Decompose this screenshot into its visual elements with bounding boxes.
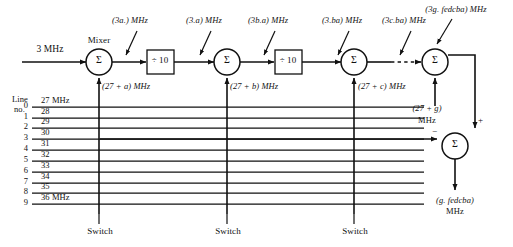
bus-line-number-1: 1 <box>24 112 28 121</box>
bus-line-number-4: 4 <box>24 144 28 153</box>
summer-3-symbol: Σ <box>351 55 357 66</box>
bus-line-frequency-9: 36 MHz <box>41 193 70 202</box>
bus-line-number-3: 3 <box>24 133 28 142</box>
divider-2-label: ÷ 10 <box>280 56 297 65</box>
input-frequency-label: 3 MHz <box>36 45 63 55</box>
output-label-line2: MHz <box>446 207 464 216</box>
bus-line-frequency-2: 29 <box>41 117 50 126</box>
stage-label-6: (3g. fedcba) MHz <box>425 5 486 14</box>
plus-sign-label: + <box>478 116 483 125</box>
offset-label-a: (27 + a) MHz <box>102 82 150 91</box>
bus-line-number-0: 0 <box>24 101 28 110</box>
bus-line-number-7: 7 <box>24 177 28 186</box>
divider-1-label: ÷ 10 <box>152 56 169 65</box>
bus-line-number-5: 5 <box>24 155 28 164</box>
stage-label-1: (3a.) MHz <box>112 16 148 25</box>
diagram-canvas: 3 MHz Mixer Σ Σ Σ Σ Σ ÷ 10 ÷ 10 (3a.) MH… <box>0 0 513 247</box>
offset-label-g-line1: (27 + g) <box>412 104 441 113</box>
offset-label-b: (27 + b) MHz <box>230 82 278 91</box>
stage-label-5: (3c.ba) MHz <box>382 16 426 25</box>
stage-label-4: (3.ba) MHz <box>322 16 362 25</box>
mixer-caption: Mixer <box>88 36 111 45</box>
summer-1-symbol: Σ <box>96 55 102 66</box>
switch-label-3[interactable]: Switch <box>342 227 368 236</box>
bus-line-number-6: 6 <box>24 166 28 175</box>
bus-line-number-8: 8 <box>24 187 28 196</box>
switch-label-1[interactable]: Switch <box>87 227 113 236</box>
summer-4-symbol: Σ <box>432 55 438 66</box>
offset-label-g-line2: MHz <box>418 116 436 125</box>
bus-line-frequency-5: 32 <box>41 150 50 159</box>
stage-label-3: (3b.a) MHz <box>248 16 288 25</box>
final-subtractor-symbol: Σ <box>452 139 458 150</box>
bus-line-frequency-4: 31 <box>41 139 50 148</box>
output-label-line1: (g. fedcba) <box>436 196 474 205</box>
stage-label-2: (3.a) MHz <box>186 16 222 25</box>
bus-line-frequency-1: 28 <box>41 107 50 116</box>
bus-line-frequency-0: 27 MHz <box>41 96 70 105</box>
summer-2-symbol: Σ <box>224 55 230 66</box>
bus-line-frequency-3: 30 <box>41 128 50 137</box>
minus-sign-label: − <box>432 127 437 136</box>
bus-line-frequency-6: 33 <box>41 161 50 170</box>
bus-line-number-9: 9 <box>24 198 28 207</box>
bus-line-frequency-7: 34 <box>41 172 50 181</box>
offset-label-c: (27 + c) MHz <box>358 82 406 91</box>
bus-line-frequency-8: 35 <box>41 182 50 191</box>
bus-line-number-2: 2 <box>24 122 28 131</box>
switch-label-2[interactable]: Switch <box>215 227 241 236</box>
